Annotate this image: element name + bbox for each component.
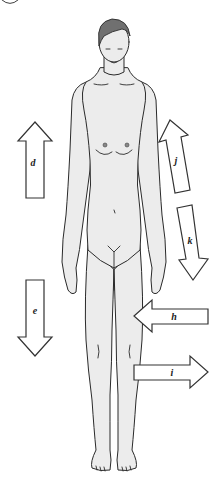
arrow-h-label: h	[171, 311, 177, 322]
arrow-k: k	[177, 205, 208, 280]
corner-marker	[2, 0, 18, 4]
human-figure	[62, 19, 166, 471]
arrow-i: i	[134, 356, 208, 388]
left-leg	[85, 245, 114, 471]
left-nipple	[103, 143, 107, 147]
arrow-k-label: k	[188, 235, 193, 246]
right-nipple	[125, 143, 129, 147]
arrow-j: j	[159, 120, 190, 193]
arrow-e: e	[18, 280, 52, 356]
down-arrow-icon	[177, 205, 208, 280]
arrow-h: h	[134, 300, 208, 332]
right-leg	[114, 245, 143, 471]
down-arrow-icon	[18, 280, 52, 356]
arrow-e-label: e	[33, 305, 38, 316]
anatomical-diagram: d e j k h i	[0, 0, 223, 487]
torso	[82, 68, 145, 268]
arrow-d: d	[18, 122, 52, 198]
arrow-i-label: i	[171, 367, 174, 378]
